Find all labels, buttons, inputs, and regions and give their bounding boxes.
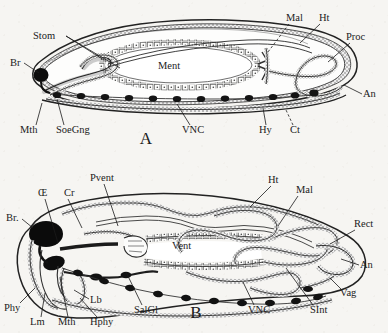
label-oe-b: Œ [38,187,47,198]
label-vnc-a: VNC [182,124,204,135]
label-soegng-a: SoeGng [56,124,91,135]
panel-b-drawing [17,194,365,318]
label-vnc-b: VNC [248,304,270,315]
label-br-b: Br. [6,212,19,223]
leader-line-mth-a-0 [36,103,42,125]
label-vent-b: Vent [172,240,191,251]
label-ct-a: Ct [290,124,300,135]
brain-a [34,68,49,82]
label-hphy-b: Hphy [90,316,114,327]
proventriculus-b [124,236,148,257]
panel-a-drawing [33,20,357,114]
label-vag-b: Vag [340,287,357,298]
oesophagus-b [60,244,118,249]
leader-line-an-a-0 [344,85,362,94]
label-cr-b: Cr [64,187,75,198]
label-stom-a: Stom [33,30,55,41]
leader-line-mth-b-0 [60,277,68,317]
label-pvent-b: Pvent [90,172,114,183]
label-mth-b: Mth [58,316,76,327]
label-mal-a: Mal [286,12,303,23]
label-salgl-b: SalGl [134,304,158,315]
label-an-b: An [360,259,374,270]
vagina-b [300,276,334,288]
label-proc-a: Proc [346,31,366,42]
panel-label-b: B [190,303,201,322]
label-lb-b: Lb [90,294,102,305]
dorsal-wall-b [62,203,328,230]
vagina-gland-b [303,286,313,292]
label-ment-a: Ment [158,60,180,71]
label-ht-b: Ht [268,174,279,185]
label-lm-b: Lm [30,316,45,327]
label-ht-a: Ht [319,12,330,23]
label-hy-a: Hy [259,124,273,135]
leader-line-ct-a-0 [286,110,293,125]
label-mth-a: Mth [20,124,38,135]
small-intestine-loop2-b [186,272,300,295]
leader-line-br-b-0 [22,219,33,228]
label-an-a: An [363,88,377,99]
label-mal-b: Mal [296,184,313,195]
panel-label-a: A [140,129,153,148]
brain-b [29,221,63,247]
label-phy-b: Phy [4,302,21,313]
label-sint-b: SInt [310,304,328,315]
figure-svg: StomBrMthSoeGngVNCHyCtMalHtProcAnMentPve… [0,0,388,333]
label-rect-b: Rect [354,218,373,229]
anatomy-figure: StomBrMthSoeGngVNCHyCtMalHtProcAnMentPve… [0,0,388,333]
label-br-a: Br [10,57,21,68]
